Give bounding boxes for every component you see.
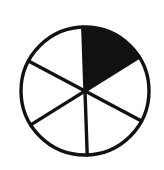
fraction-pie-diagram [0, 0, 164, 170]
pie-chart-icon [0, 0, 164, 170]
pie-group [21, 27, 149, 155]
